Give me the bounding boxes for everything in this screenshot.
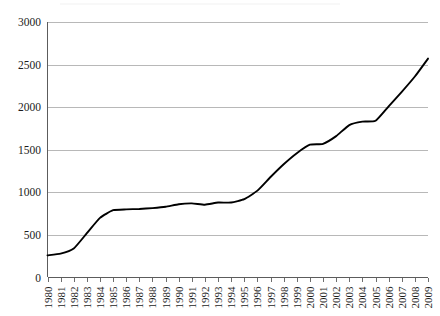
x-tick-label-1986: 1986 <box>120 286 132 309</box>
x-tick-label-2007: 2007 <box>396 286 408 309</box>
x-tick-label-2001: 2001 <box>317 287 329 309</box>
gridlines <box>48 23 429 236</box>
x-tick-label-1991: 1991 <box>186 287 198 309</box>
y-tick-label-0: 0 <box>35 272 41 284</box>
x-tick-label-1987: 1987 <box>133 286 145 309</box>
y-tick-label-2500: 2500 <box>18 59 41 71</box>
x-tick-label-1997: 1997 <box>265 286 277 309</box>
x-tick-label-1992: 1992 <box>199 287 211 309</box>
x-tick-label-2000: 2000 <box>304 286 316 309</box>
x-tick-label-2005: 2005 <box>370 286 382 309</box>
x-tick-label-1988: 1988 <box>146 286 158 309</box>
x-tick-label-1996: 1996 <box>251 286 263 309</box>
x-tick-label-1983: 1983 <box>81 286 93 309</box>
x-tick-label-2008: 2008 <box>409 286 421 309</box>
scan-artifact <box>60 3 340 5</box>
x-tick-label-2004: 2004 <box>356 286 368 309</box>
x-tick-label-2009: 2009 <box>422 286 434 309</box>
y-tick-label-1000: 1000 <box>18 186 41 198</box>
y-tick-label-2000: 2000 <box>18 101 41 113</box>
y-tick-label-3000: 3000 <box>18 16 41 28</box>
x-tick-label-2003: 2003 <box>343 286 355 309</box>
data-series-line <box>48 59 429 256</box>
x-tick-label-1990: 1990 <box>173 286 185 309</box>
x-tick-label-1994: 1994 <box>225 286 237 309</box>
x-tick-label-1984: 1984 <box>94 286 106 309</box>
x-tick-label-1981: 1981 <box>55 287 67 309</box>
x-tick-label-1989: 1989 <box>160 286 172 309</box>
x-axis-labels: 1980198119821983198419851986198719881989… <box>42 286 435 309</box>
x-tick-label-1999: 1999 <box>291 286 303 309</box>
y-axis-labels: 300025002000150010005000 <box>18 16 41 284</box>
x-tick-label-1993: 1993 <box>212 286 224 309</box>
x-tick-label-1980: 1980 <box>42 286 54 309</box>
x-tick-label-2002: 2002 <box>330 287 342 309</box>
x-tick-label-1985: 1985 <box>107 286 119 309</box>
y-tick-label-1500: 1500 <box>18 144 41 156</box>
x-tick-label-1982: 1982 <box>68 287 80 309</box>
x-tickmarks <box>49 278 429 282</box>
x-tick-label-2006: 2006 <box>383 286 395 309</box>
y-tick-label-500: 500 <box>24 229 42 241</box>
line-chart: 300025002000150010005000 198019811982198… <box>0 0 440 316</box>
x-tick-label-1995: 1995 <box>238 286 250 309</box>
x-tick-label-1998: 1998 <box>278 286 290 309</box>
chart-container: 300025002000150010005000 198019811982198… <box>0 0 440 316</box>
